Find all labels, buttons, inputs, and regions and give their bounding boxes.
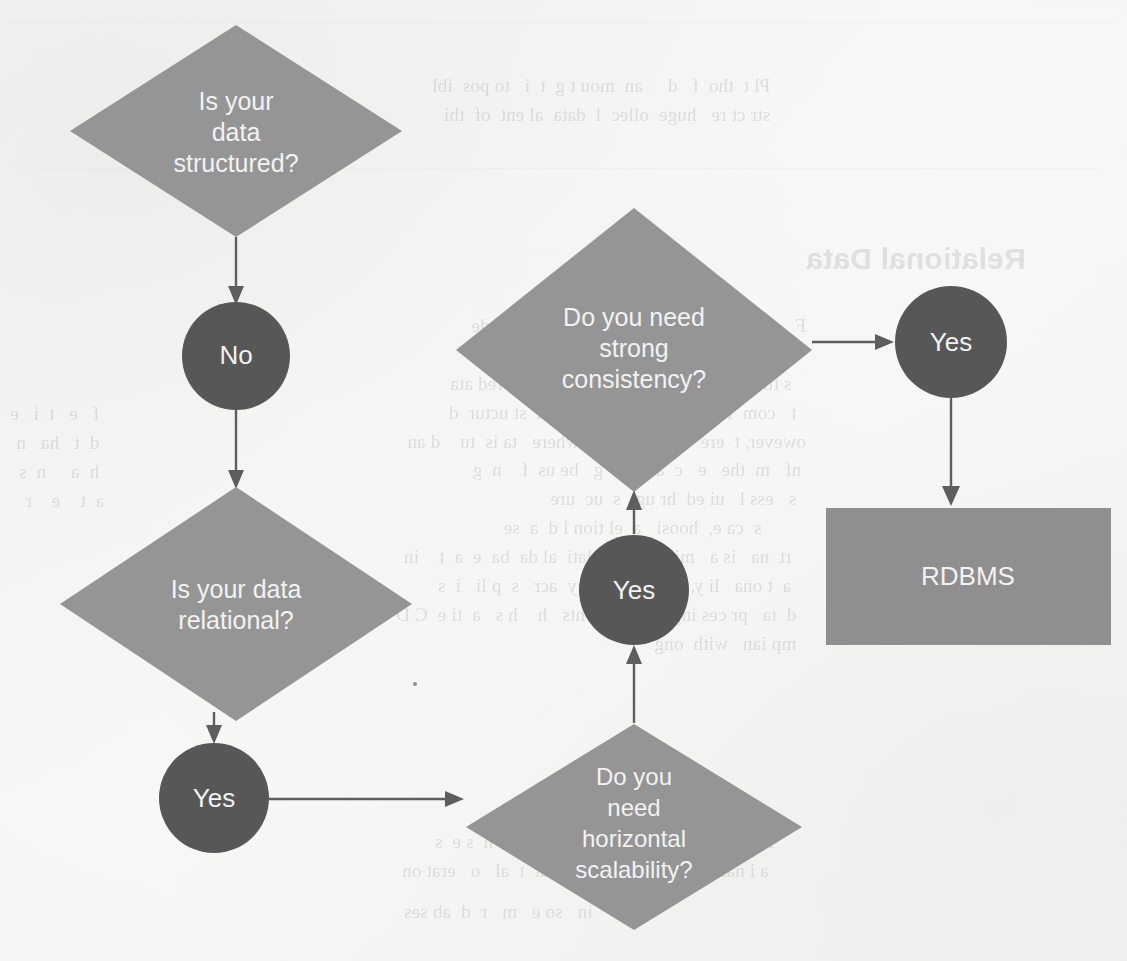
- node-label-line: Is your data: [171, 575, 302, 603]
- flowchart: Is your data structured? No Is your data…: [0, 0, 1127, 961]
- node-label-line: need: [607, 794, 660, 821]
- node-label-line: Yes: [193, 783, 235, 813]
- node-is-your-data-relational[interactable]: Is your data relational?: [60, 487, 412, 721]
- node-label-line: strong: [599, 334, 668, 362]
- node-label-line: horizontal: [582, 825, 686, 852]
- node-do-you-need-strong-consistency[interactable]: Do you need strong consistency?: [456, 208, 812, 492]
- node-label-line: Yes: [930, 327, 972, 357]
- edge-yes-to-horizontal: [269, 791, 464, 807]
- node-label-line: Do you: [596, 763, 672, 790]
- node-answer-no[interactable]: No: [182, 302, 290, 410]
- node-is-your-data-structured[interactable]: Is your data structured?: [70, 25, 402, 237]
- node-label-line: RDBMS: [921, 561, 1015, 591]
- scanned-page: Pl t tho f d an mou t g t i to pos ibl s…: [0, 0, 1127, 961]
- node-answer-yes-relational[interactable]: Yes: [159, 743, 269, 853]
- edge-relational-to-yes: [206, 712, 222, 744]
- edge-no-to-relational: [228, 410, 244, 489]
- node-label-line: Do you need: [563, 303, 705, 331]
- edge-yes-to-rdbms: [942, 398, 960, 506]
- node-answer-yes-consistency[interactable]: Yes: [895, 286, 1007, 398]
- node-label-line: Is your: [198, 87, 273, 115]
- node-do-you-need-horizontal-scalability[interactable]: Do you need horizontal scalability?: [466, 724, 802, 930]
- node-label-line: scalability?: [575, 856, 692, 883]
- edge-horizontal-to-yes: [626, 645, 642, 723]
- node-label-line: Yes: [613, 575, 655, 605]
- diamond-shape: [60, 487, 412, 721]
- edge-consistency-to-yes: [812, 334, 894, 350]
- node-answer-yes-horizontal[interactable]: Yes: [579, 535, 689, 645]
- node-label-line: data: [212, 118, 261, 146]
- node-label-line: consistency?: [562, 365, 707, 393]
- edge-structured-to-no: [228, 237, 244, 305]
- edge-yes-to-consistency: [626, 490, 642, 534]
- node-label-line: structured?: [173, 149, 298, 177]
- node-label-line: relational?: [178, 606, 293, 634]
- node-label-line: No: [219, 340, 252, 370]
- node-result-rdbms[interactable]: RDBMS: [826, 508, 1111, 645]
